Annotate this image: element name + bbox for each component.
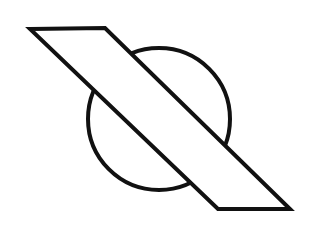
line-drawing-figure: Overlapping circle and parallelogram lin… <box>0 0 311 235</box>
